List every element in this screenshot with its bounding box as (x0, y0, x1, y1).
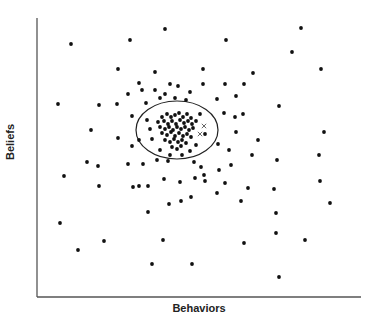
scatter-plot (0, 0, 378, 323)
data-point (176, 84, 180, 88)
data-point (173, 96, 177, 100)
data-point (319, 67, 323, 71)
data-point (166, 159, 170, 163)
data-point (188, 149, 192, 153)
data-point (175, 147, 179, 151)
data-point (191, 126, 195, 130)
data-point (277, 275, 281, 279)
data-point (189, 116, 193, 120)
data-point (322, 130, 326, 134)
data-point (217, 168, 221, 172)
data-point (180, 138, 184, 142)
data-point (234, 94, 238, 98)
data-point (150, 262, 154, 266)
data-point (126, 92, 130, 96)
data-point (162, 119, 166, 123)
data-point (229, 163, 233, 167)
data-point (193, 176, 197, 180)
data-point (186, 119, 190, 123)
data-point (274, 211, 278, 215)
data-point (163, 138, 167, 142)
data-point (184, 98, 188, 102)
data-point (85, 160, 89, 164)
data-point (290, 50, 294, 54)
data-point (137, 138, 141, 142)
data-point (233, 115, 237, 119)
data-point (299, 26, 303, 30)
data-point (202, 173, 206, 177)
data-point (69, 42, 73, 46)
data-point (246, 186, 250, 190)
data-point (76, 248, 80, 252)
data-point (168, 140, 172, 144)
data-point (158, 148, 162, 152)
data-point (203, 179, 207, 183)
data-point (185, 132, 189, 136)
data-point (116, 136, 120, 140)
data-point (223, 181, 227, 185)
data-point (126, 162, 130, 166)
data-point (150, 137, 154, 141)
data-point (128, 38, 132, 42)
data-point (181, 115, 185, 119)
data-point (256, 138, 260, 142)
data-point (183, 125, 187, 129)
data-point (130, 114, 134, 118)
data-point (137, 184, 141, 188)
data-point (158, 125, 162, 129)
data-point (277, 104, 281, 108)
data-point (184, 141, 188, 145)
data-point (89, 128, 93, 132)
data-point (317, 153, 321, 157)
data-point (181, 134, 185, 138)
data-point (170, 119, 174, 123)
data-point (177, 131, 181, 135)
data-point (192, 160, 196, 164)
data-point (161, 238, 165, 242)
data-point (58, 221, 62, 225)
data-point (144, 101, 148, 105)
data-point (170, 145, 174, 149)
data-point (116, 67, 120, 71)
data-point (153, 88, 157, 92)
data-point (97, 103, 101, 107)
data-point (178, 180, 182, 184)
data-point (168, 153, 172, 157)
data-point (140, 88, 144, 92)
data-point (179, 144, 183, 148)
data-point (328, 201, 332, 205)
data-point (215, 97, 219, 101)
data-point (216, 142, 220, 146)
data-point (176, 140, 180, 144)
data-point (242, 241, 246, 245)
data-point (222, 111, 226, 115)
data-point (148, 127, 152, 131)
data-point (189, 195, 193, 199)
data-point (272, 187, 276, 191)
data-point (175, 125, 179, 129)
data-point (223, 82, 227, 86)
data-point (97, 184, 101, 188)
data-point (275, 158, 279, 162)
data-point (185, 112, 189, 116)
data-point (250, 153, 254, 157)
data-point (167, 125, 171, 129)
data-point (198, 112, 202, 116)
data-point (130, 144, 134, 148)
data-point (177, 111, 181, 115)
data-point (215, 191, 219, 195)
data-point (239, 199, 243, 203)
data-point (155, 158, 159, 162)
data-point (179, 199, 183, 203)
data-point (146, 184, 150, 188)
data-point (190, 122, 194, 126)
data-point (180, 153, 184, 157)
data-point (190, 262, 194, 266)
data-point (194, 119, 198, 123)
data-point (158, 96, 162, 100)
cross-marker (202, 124, 206, 128)
data-point (163, 27, 167, 31)
data-point (168, 82, 172, 86)
data-point (303, 238, 307, 242)
data-point (163, 127, 167, 131)
